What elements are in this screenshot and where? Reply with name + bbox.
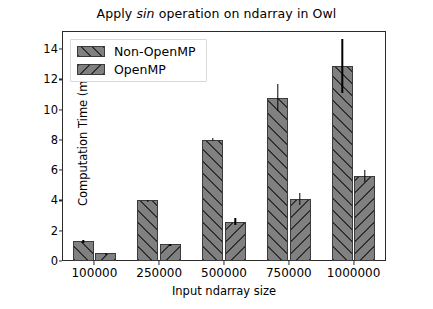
bar <box>354 176 375 261</box>
x-tick-mark <box>353 261 354 265</box>
y-tick-mark <box>59 200 63 201</box>
y-tick-mark <box>59 79 63 80</box>
legend-swatch <box>77 46 105 57</box>
x-tick-mark <box>94 261 95 265</box>
x-tick-label: 1000000 <box>327 266 380 280</box>
chart-title: Apply sin operation on ndarray in Owl <box>0 6 433 21</box>
error-bar <box>277 84 278 111</box>
y-tick-mark <box>59 109 63 110</box>
chart-title-before: Apply <box>97 6 137 21</box>
legend-label: OpenMP <box>114 62 166 77</box>
x-axis-label: Input ndarray size <box>62 284 386 298</box>
y-tick-mark <box>59 49 63 50</box>
x-tick-mark <box>159 261 160 265</box>
x-tick-label: 750000 <box>266 266 312 280</box>
bar <box>332 66 353 261</box>
y-tick-label: 2 <box>24 224 58 238</box>
y-tick-label: 0 <box>24 254 58 268</box>
bar <box>73 241 94 261</box>
chart-legend: Non-OpenMPOpenMP <box>70 39 207 82</box>
x-tick-label: 500000 <box>201 266 247 280</box>
error-bar <box>170 244 171 246</box>
y-tick-mark <box>59 230 63 231</box>
y-tick-mark <box>59 260 63 261</box>
chart-title-italic: sin <box>136 6 154 21</box>
bar <box>290 199 311 261</box>
y-tick-mark <box>59 170 63 171</box>
y-tick-label: 14 <box>24 42 58 56</box>
error-bar <box>105 253 106 255</box>
bar <box>137 200 158 261</box>
legend-swatch <box>77 64 105 75</box>
error-bar <box>299 193 300 205</box>
error-bar <box>235 218 236 226</box>
chart-title-after: operation on ndarray in Owl <box>155 6 337 21</box>
x-tick-label: 100000 <box>71 266 117 280</box>
error-bar <box>212 138 213 141</box>
bar <box>225 222 246 261</box>
bar <box>202 140 223 261</box>
x-tick-mark <box>288 261 289 265</box>
y-tick-label: 4 <box>24 193 58 207</box>
legend-item[interactable]: OpenMP <box>77 62 196 77</box>
y-tick-label: 8 <box>24 133 58 147</box>
y-tick-label: 6 <box>24 163 58 177</box>
legend-item[interactable]: Non-OpenMP <box>77 44 196 59</box>
legend-label: Non-OpenMP <box>114 44 196 59</box>
error-bar <box>147 200 148 202</box>
y-tick-label: 12 <box>24 72 58 86</box>
x-tick-label: 250000 <box>136 266 182 280</box>
y-tick-label: 10 <box>24 103 58 117</box>
chart-figure: Apply sin operation on ndarray in Owl Co… <box>0 0 433 309</box>
x-tick-mark <box>223 261 224 265</box>
bar <box>160 244 181 261</box>
error-bar <box>342 39 343 93</box>
error-bar <box>364 170 365 182</box>
bar <box>267 98 288 261</box>
error-bar <box>82 240 83 243</box>
y-tick-mark <box>59 139 63 140</box>
